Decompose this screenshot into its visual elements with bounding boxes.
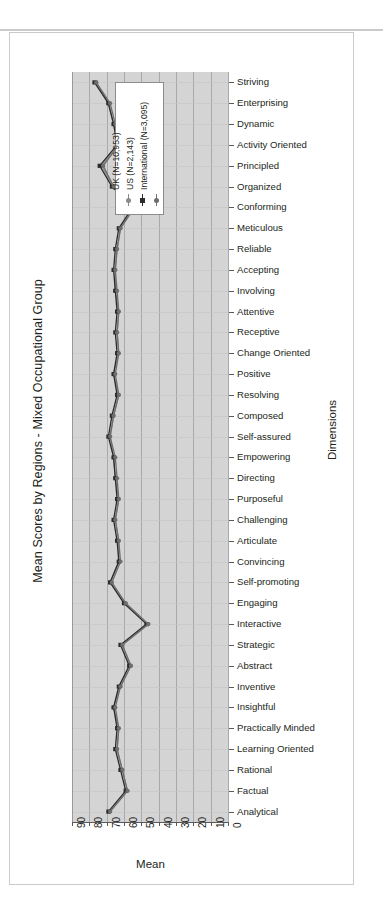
legend-label: UK (N=10,953) xyxy=(111,132,121,190)
x-axis-tick-label: 20 xyxy=(197,817,208,828)
y-axis-category-label: Challenging xyxy=(237,515,288,525)
y-axis-category-label: Analytical xyxy=(237,807,278,817)
data-point xyxy=(113,372,117,376)
x-axis-tick-label: 0 xyxy=(232,822,243,828)
y-axis-category-label: Articulate xyxy=(237,536,277,546)
y-axis-tick xyxy=(229,457,234,458)
y-axis-tick xyxy=(229,603,234,604)
x-axis-tick-label: 60 xyxy=(128,817,139,828)
y-axis-category-label: Resolving xyxy=(237,390,279,400)
data-point xyxy=(115,330,119,334)
y-axis-category-label: Organized xyxy=(237,182,281,192)
y-axis-tick xyxy=(229,624,234,625)
y-axis-category-label: Enterprising xyxy=(237,98,288,108)
page-top-rule xyxy=(0,29,383,31)
y-axis-tick xyxy=(229,187,234,188)
y-axis-tick xyxy=(229,770,234,771)
legend-entry: International (N=3,095) xyxy=(149,87,163,208)
data-point xyxy=(117,497,121,501)
data-point xyxy=(129,664,133,668)
y-axis-category-label: Learning Oriented xyxy=(237,744,314,754)
chart-legend: UK (N=10,953)US (N=2,143)International (… xyxy=(115,82,164,215)
data-point xyxy=(115,747,119,751)
y-axis-tick xyxy=(229,687,234,688)
y-axis-tick xyxy=(229,270,234,271)
y-axis-tick xyxy=(229,520,234,521)
data-point xyxy=(115,476,119,480)
y-axis-tick xyxy=(229,645,234,646)
data-point xyxy=(117,393,121,397)
x-axis-tick xyxy=(89,822,90,826)
y-axis-category-label: Receptive xyxy=(237,327,280,337)
data-point xyxy=(113,455,117,459)
y-axis-category-label: Self-promoting xyxy=(237,577,299,587)
y-axis-category-label: Rational xyxy=(237,765,272,775)
y-axis-tick xyxy=(229,145,234,146)
x-axis-tick xyxy=(124,822,125,826)
y-axis-category-label: Insightful xyxy=(237,702,275,712)
data-point xyxy=(113,518,117,522)
data-point xyxy=(117,310,121,314)
y-axis-category-label: Involving xyxy=(237,286,275,296)
data-point xyxy=(115,247,119,251)
legend-marker-icon xyxy=(153,194,160,206)
y-axis-tick xyxy=(229,312,234,313)
y-axis-category-label: Convincing xyxy=(237,557,284,567)
legend-label: US (N=2,143) xyxy=(125,137,135,190)
y-axis-category-label: Composed xyxy=(237,411,283,421)
data-point xyxy=(146,622,150,626)
legend-marker-icon xyxy=(125,194,132,206)
y-axis-category-label: Interactive xyxy=(237,619,281,629)
x-axis-tick xyxy=(107,822,108,826)
y-axis-tick xyxy=(229,749,234,750)
y-axis-tick xyxy=(229,291,234,292)
y-axis-category-label: Factual xyxy=(237,786,268,796)
y-axis-tick xyxy=(229,478,234,479)
data-point xyxy=(108,810,112,814)
x-axis-tick xyxy=(72,822,73,826)
y-axis-tick xyxy=(229,228,234,229)
y-axis-tick xyxy=(229,437,234,438)
x-axis-tick-label: 40 xyxy=(163,817,174,828)
data-point xyxy=(94,80,98,84)
data-point xyxy=(115,289,119,293)
data-point xyxy=(118,560,122,564)
legend-label: International (N=3,095) xyxy=(139,102,149,190)
x-axis-tick xyxy=(193,822,194,826)
legend-marker-icon xyxy=(139,194,146,206)
data-point xyxy=(113,268,117,272)
chart-figure: Mean Scores by Regions - Mixed Occupatio… xyxy=(9,32,354,885)
y-axis-category-label: Positive xyxy=(237,369,271,379)
y-axis-category-label: Dynamic xyxy=(237,119,274,129)
y-axis-tick xyxy=(229,166,234,167)
data-point xyxy=(118,685,122,689)
x-axis-tick-label: 50 xyxy=(145,817,156,828)
y-axis-category-label: Empowering xyxy=(237,452,290,462)
data-point xyxy=(117,539,121,543)
y-axis-category-label: Purposeful xyxy=(237,494,283,504)
data-point xyxy=(110,580,114,584)
x-axis-tick xyxy=(211,822,212,826)
y-axis-tick xyxy=(229,582,234,583)
y-axis-category-label: Self-assured xyxy=(237,432,291,442)
y-axis-title: Dimensions xyxy=(326,370,338,490)
y-axis-category-label: Accepting xyxy=(237,265,279,275)
y-axis-category-label: Principled xyxy=(237,161,279,171)
y-axis-category-label: Conforming xyxy=(237,202,287,212)
y-axis-category-label: Practically Minded xyxy=(237,723,315,733)
y-axis-tick xyxy=(229,666,234,667)
data-point xyxy=(120,768,124,772)
data-point xyxy=(125,789,129,793)
data-point xyxy=(117,726,121,730)
chart-title: Mean Scores by Regions - Mixed Occupatio… xyxy=(31,271,45,591)
data-point xyxy=(112,414,116,418)
y-axis-category-label: Abstract xyxy=(237,661,272,671)
data-point xyxy=(118,226,122,230)
x-axis-tick-label: 80 xyxy=(93,817,104,828)
y-axis-category-label: Strategic xyxy=(237,640,275,650)
y-axis-tick xyxy=(229,207,234,208)
x-axis-tick xyxy=(141,822,142,826)
y-axis-tick xyxy=(229,707,234,708)
y-axis-tick xyxy=(229,562,234,563)
y-axis-category-label: Attentive xyxy=(237,307,274,317)
